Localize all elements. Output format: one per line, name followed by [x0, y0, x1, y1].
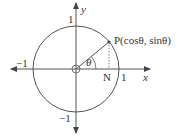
point-p-label: P(cosθ, sinθ) [114, 34, 171, 47]
y-axis-label: y [80, 3, 86, 15]
tick-y-neg: −1 [59, 112, 71, 124]
angle-arc [92, 56, 97, 69]
tick-y-pos: 1 [68, 13, 74, 25]
unit-circle-diagram: y x 1 −1 −1 1 N θ P(cosθ, sinθ) [0, 0, 180, 136]
angle-label-theta: θ [86, 56, 92, 68]
tick-x-pos: 1 [121, 71, 127, 83]
foot-label-n: N [103, 71, 111, 83]
x-axis-label: x [142, 71, 148, 83]
tick-x-neg: −1 [16, 57, 28, 69]
radius-op [76, 42, 109, 69]
